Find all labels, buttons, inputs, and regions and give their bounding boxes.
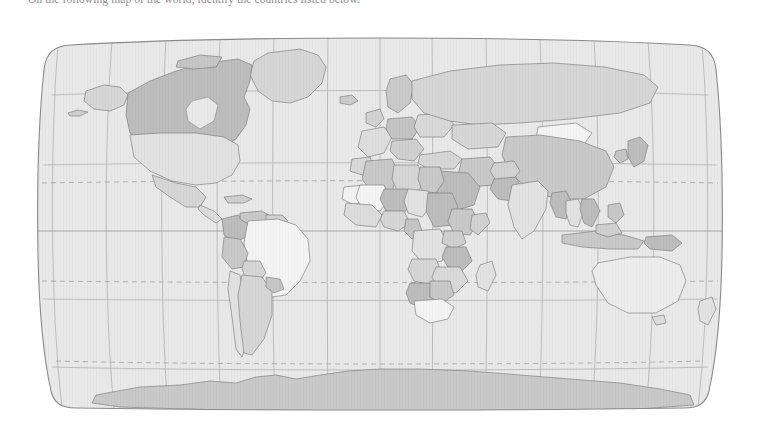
instruction-line: On the following map of the world, ident… [0,0,759,9]
world-map-figure [0,9,759,425]
instruction-text: On the following map of the world, ident… [28,0,360,5]
world-map-graphic[interactable] [0,9,759,425]
scan-hatch-overlay [38,38,723,410]
